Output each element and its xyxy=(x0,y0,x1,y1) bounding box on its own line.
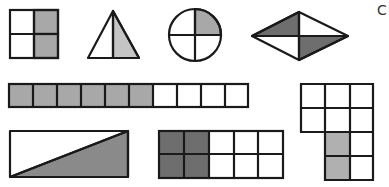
rectangle-figure xyxy=(10,131,128,177)
rhombus-figure xyxy=(252,12,348,60)
square-shaded-top-right xyxy=(34,10,58,34)
triangle-figure xyxy=(88,11,139,58)
fraction-shapes-diagram xyxy=(0,0,389,187)
square-shaded-bottom-right xyxy=(34,34,58,58)
l-shape-figure xyxy=(301,84,373,180)
edge-glyph: C xyxy=(377,3,387,17)
grid-figure xyxy=(159,131,283,178)
square-figure xyxy=(10,10,58,58)
strip-figure xyxy=(9,84,248,107)
circle-figure xyxy=(169,9,221,61)
